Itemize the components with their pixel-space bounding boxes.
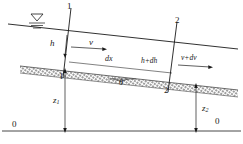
section-1-bottom-label: 1 bbox=[59, 72, 64, 81]
velocity-downstream-arrow bbox=[178, 65, 213, 69]
flow-diagram: 1 1 2 2 h v h+dh v+dv dx θ z1 z2 0 0 bbox=[0, 0, 243, 144]
section-line-2 bbox=[168, 22, 177, 92]
length-element-label: dx bbox=[105, 55, 113, 63]
datum-left-label: 0 bbox=[12, 120, 17, 129]
diagram-canvas bbox=[0, 0, 243, 144]
velocity-downstream-label: v+dv bbox=[181, 54, 196, 62]
datum-right-label: 0 bbox=[215, 117, 220, 126]
section-2-top-label: 2 bbox=[175, 16, 180, 25]
bed-top-line bbox=[20, 66, 238, 90]
channel-bed-band bbox=[20, 66, 238, 97]
velocity-upstream-arrow bbox=[71, 47, 107, 51]
section-2-bottom-label: 2 bbox=[164, 86, 169, 95]
section-1-top-label: 1 bbox=[67, 2, 72, 11]
water-surface-line bbox=[8, 24, 238, 49]
free-surface-triangle-icon bbox=[29, 14, 45, 28]
depth-downstream-label: h+dh bbox=[141, 57, 157, 65]
elevation-upstream-label: z1 bbox=[53, 96, 60, 105]
section-line-1 bbox=[63, 8, 71, 78]
bed-bottom-line bbox=[20, 73, 238, 97]
depth-upstream-label: h bbox=[50, 39, 55, 48]
elevation-downstream-label: z2 bbox=[202, 104, 209, 113]
bed-angle-label: θ bbox=[119, 79, 123, 87]
velocity-upstream-label: v bbox=[89, 38, 93, 47]
